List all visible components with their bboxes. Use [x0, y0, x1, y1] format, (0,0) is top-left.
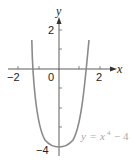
y-tick-label-2: 2 — [48, 24, 54, 36]
x-tick-label-2: 2 — [96, 71, 102, 83]
svg-text:4: 4 — [107, 129, 111, 137]
equation-annotation: y = x 4 − 4 — [80, 129, 129, 142]
x-axis-label: x — [116, 62, 123, 76]
y-tick-label-neg4: −4 — [36, 144, 49, 156]
svg-text:x: x — [99, 130, 105, 142]
y-ticks — [59, 30, 62, 127]
svg-text:y: y — [80, 130, 86, 142]
svg-text:− 4: − 4 — [114, 130, 129, 142]
y-axis-arrow-icon — [57, 17, 62, 24]
chart-canvas: −2 0 2 2 −4 x y y = x 4 − 4 — [0, 0, 139, 163]
x-tick-label-neg2: −2 — [7, 71, 20, 83]
x-tick-label-0: 0 — [48, 71, 54, 83]
x-axis-arrow-icon — [110, 67, 117, 72]
y-axis-label: y — [55, 4, 62, 18]
svg-text:=: = — [90, 130, 96, 142]
